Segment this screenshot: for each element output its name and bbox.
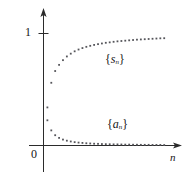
data-point bbox=[128, 144, 130, 146]
data-point bbox=[101, 143, 103, 145]
data-point bbox=[82, 142, 84, 144]
data-point bbox=[128, 39, 130, 41]
data-point bbox=[144, 144, 146, 146]
data-point bbox=[62, 139, 64, 141]
data-point bbox=[113, 41, 115, 43]
data-point bbox=[159, 37, 161, 39]
data-point bbox=[46, 119, 48, 121]
data-point bbox=[113, 143, 115, 145]
data-point bbox=[109, 143, 111, 145]
y-tick-label-one: 1 bbox=[25, 26, 31, 38]
data-point bbox=[70, 53, 72, 55]
axes-group bbox=[29, 8, 182, 172]
data-point bbox=[101, 43, 103, 45]
series-sn-points bbox=[46, 37, 165, 108]
data-point bbox=[105, 42, 107, 44]
data-point bbox=[74, 50, 76, 52]
data-point bbox=[140, 39, 142, 41]
data-point bbox=[105, 143, 107, 145]
data-point bbox=[163, 144, 165, 146]
data-point bbox=[62, 59, 64, 61]
data-point bbox=[70, 141, 72, 143]
data-point bbox=[120, 144, 122, 146]
series-label-an: {an} bbox=[107, 118, 128, 131]
data-point bbox=[124, 40, 126, 42]
data-point bbox=[132, 39, 134, 41]
data-point bbox=[117, 40, 119, 42]
origin-label-zero: 0 bbox=[31, 148, 37, 160]
data-point bbox=[156, 38, 158, 40]
data-point bbox=[132, 144, 134, 146]
data-point bbox=[58, 64, 60, 66]
data-point bbox=[89, 45, 91, 47]
series-label-sn: {sn} bbox=[105, 53, 125, 66]
data-point bbox=[46, 107, 48, 109]
data-point bbox=[85, 142, 87, 144]
data-point bbox=[159, 144, 161, 146]
data-point bbox=[66, 140, 68, 142]
data-point bbox=[144, 38, 146, 40]
sequence-convergence-figure: 1 0 n {sn} {an} bbox=[0, 0, 191, 181]
data-point bbox=[78, 49, 80, 51]
data-point bbox=[89, 143, 91, 145]
data-point bbox=[54, 70, 56, 72]
data-point bbox=[152, 38, 154, 40]
data-point bbox=[50, 82, 52, 84]
data-point bbox=[85, 46, 87, 48]
x-axis-label-n: n bbox=[170, 152, 176, 163]
data-point bbox=[54, 134, 56, 136]
data-point bbox=[136, 144, 138, 146]
data-point bbox=[148, 38, 150, 40]
data-point bbox=[124, 144, 126, 146]
data-point bbox=[117, 143, 119, 145]
data-point bbox=[156, 144, 158, 146]
data-point bbox=[136, 39, 138, 41]
data-point bbox=[163, 37, 165, 39]
series-an-points bbox=[46, 119, 165, 146]
data-point bbox=[120, 40, 122, 42]
data-point bbox=[148, 144, 150, 146]
data-point bbox=[93, 143, 95, 145]
data-point bbox=[74, 141, 76, 143]
data-point bbox=[58, 137, 60, 139]
data-point bbox=[66, 56, 68, 58]
data-point bbox=[140, 144, 142, 146]
data-point bbox=[93, 44, 95, 46]
data-point bbox=[78, 142, 80, 144]
data-point bbox=[97, 143, 99, 145]
data-point bbox=[82, 47, 84, 49]
sn-brace-close: } bbox=[119, 52, 125, 66]
data-point bbox=[97, 43, 99, 45]
data-point bbox=[50, 129, 52, 131]
data-point bbox=[109, 41, 111, 43]
data-point bbox=[152, 144, 154, 146]
an-brace-close: } bbox=[122, 117, 128, 131]
